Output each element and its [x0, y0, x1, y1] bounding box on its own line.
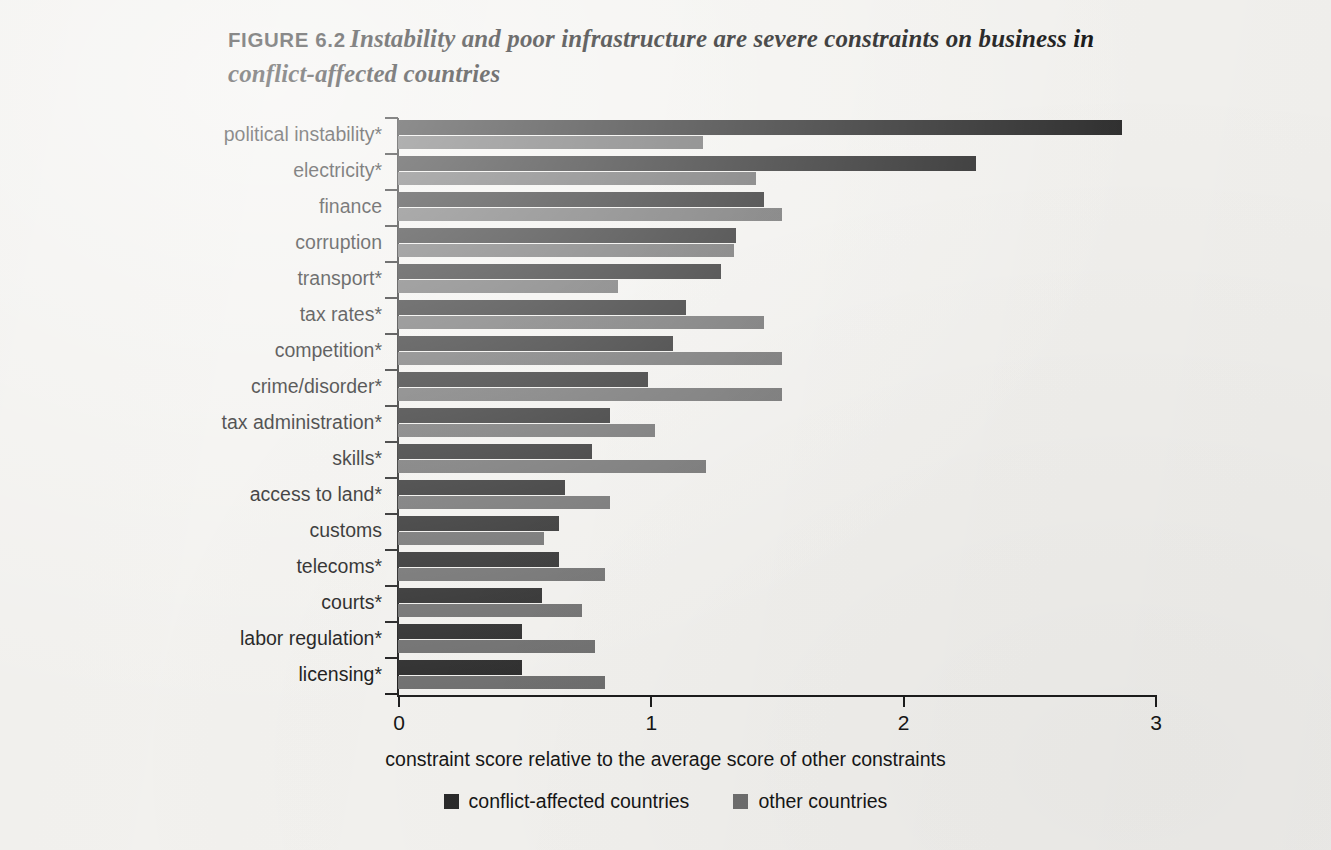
bar-group: [398, 156, 1155, 185]
bar-conflict-affected: [398, 264, 721, 279]
y-axis-tick: [385, 621, 398, 623]
bar-group: [398, 372, 1155, 401]
bar-conflict-affected: [398, 120, 1122, 135]
x-axis-tick: [398, 695, 400, 707]
y-axis-tick: [385, 153, 398, 155]
y-axis-label: skills*: [332, 447, 382, 470]
y-axis-tick: [385, 585, 398, 587]
bar-conflict-affected: [398, 444, 592, 459]
bar-group: [398, 480, 1155, 509]
bar-other-countries: [398, 532, 544, 545]
bar-other-countries: [398, 424, 655, 437]
plot-area: [398, 118, 1155, 696]
legend-swatch-icon: [733, 794, 748, 809]
y-axis-label: access to land*: [250, 483, 382, 506]
y-axis-tick: [385, 369, 398, 371]
bar-other-countries: [398, 280, 618, 293]
y-axis-tick: [385, 441, 398, 443]
y-axis-label: electricity*: [293, 159, 382, 182]
bar-group: [398, 624, 1155, 653]
bar-group: [398, 444, 1155, 473]
bar-other-countries: [398, 460, 706, 473]
bar-group: [398, 336, 1155, 365]
legend-label: other countries: [758, 790, 887, 813]
bar-group: [398, 588, 1155, 617]
bar-rows: [398, 118, 1155, 696]
bar-other-countries: [398, 352, 782, 365]
y-axis-tick: [385, 405, 398, 407]
bar-conflict-affected: [398, 192, 764, 207]
x-axis-tick-label: 0: [393, 711, 405, 735]
bar-conflict-affected: [398, 480, 565, 495]
bar-group: [398, 552, 1155, 581]
y-axis-tick: [385, 333, 398, 335]
y-axis-label: corruption: [295, 231, 382, 254]
x-axis-tick-label: 3: [1150, 711, 1162, 735]
y-axis-tick: [385, 297, 398, 299]
bar-group: [398, 264, 1155, 293]
y-axis-label: tax administration*: [222, 411, 382, 434]
legend-item: other countries: [733, 790, 887, 813]
bar-conflict-affected: [398, 156, 976, 171]
y-axis-label: political instability*: [224, 123, 382, 146]
bar-conflict-affected: [398, 624, 522, 639]
y-axis-tick: [385, 261, 398, 263]
bar-group: [398, 120, 1155, 149]
bar-group: [398, 192, 1155, 221]
y-axis-label: labor regulation*: [240, 627, 382, 650]
x-axis-caption: constraint score relative to the average…: [0, 748, 1331, 771]
bar-conflict-affected: [398, 552, 559, 567]
bar-other-countries: [398, 676, 605, 689]
y-axis-tick: [385, 693, 398, 695]
legend-swatch-icon: [444, 794, 459, 809]
legend-item: conflict-affected countries: [444, 790, 690, 813]
bar-conflict-affected: [398, 660, 522, 675]
y-axis-tick: [385, 549, 398, 551]
y-axis-label: courts*: [321, 591, 382, 614]
bar-group: [398, 408, 1155, 437]
bar-other-countries: [398, 136, 703, 149]
y-axis-tick: [385, 657, 398, 659]
y-axis-labels: political instability*electricity*financ…: [120, 118, 382, 696]
x-axis-tick: [650, 695, 652, 707]
bar-conflict-affected: [398, 336, 673, 351]
bar-other-countries: [398, 316, 764, 329]
y-axis-tick: [385, 225, 398, 227]
bar-other-countries: [398, 208, 782, 221]
y-axis-label: licensing*: [299, 663, 382, 686]
bar-group: [398, 300, 1155, 329]
bar-other-countries: [398, 496, 610, 509]
bar-conflict-affected: [398, 588, 542, 603]
y-axis-tick: [385, 477, 398, 479]
bar-conflict-affected: [398, 516, 559, 531]
x-axis-tick: [903, 695, 905, 707]
y-axis-tick: [385, 117, 398, 119]
y-axis-label: finance: [319, 195, 382, 218]
y-axis-label: crime/disorder*: [251, 375, 382, 398]
figure-page: FIGURE 6.2 Instability and poor infrastr…: [0, 0, 1331, 850]
y-axis-label: tax rates*: [300, 303, 382, 326]
chart-legend: conflict-affected countriesother countri…: [0, 790, 1331, 813]
y-axis-tick: [385, 189, 398, 191]
bar-group: [398, 228, 1155, 257]
bar-other-countries: [398, 388, 782, 401]
legend-label: conflict-affected countries: [469, 790, 690, 813]
bar-chart: political instability*electricity*financ…: [0, 0, 1331, 850]
bar-conflict-affected: [398, 228, 736, 243]
bar-group: [398, 660, 1155, 689]
x-axis-tick: [1155, 695, 1157, 707]
y-axis-label: competition*: [275, 339, 382, 362]
bar-other-countries: [398, 172, 756, 185]
bar-conflict-affected: [398, 300, 686, 315]
y-axis-label: transport*: [297, 267, 382, 290]
y-axis-tick: [385, 513, 398, 515]
bar-other-countries: [398, 568, 605, 581]
bar-other-countries: [398, 244, 734, 257]
bar-conflict-affected: [398, 408, 610, 423]
y-axis-label: customs: [309, 519, 382, 542]
x-axis-tick-label: 1: [645, 711, 657, 735]
bar-other-countries: [398, 604, 582, 617]
bar-other-countries: [398, 640, 595, 653]
y-axis-label: telecoms*: [296, 555, 382, 578]
x-axis-tick-label: 2: [898, 711, 910, 735]
